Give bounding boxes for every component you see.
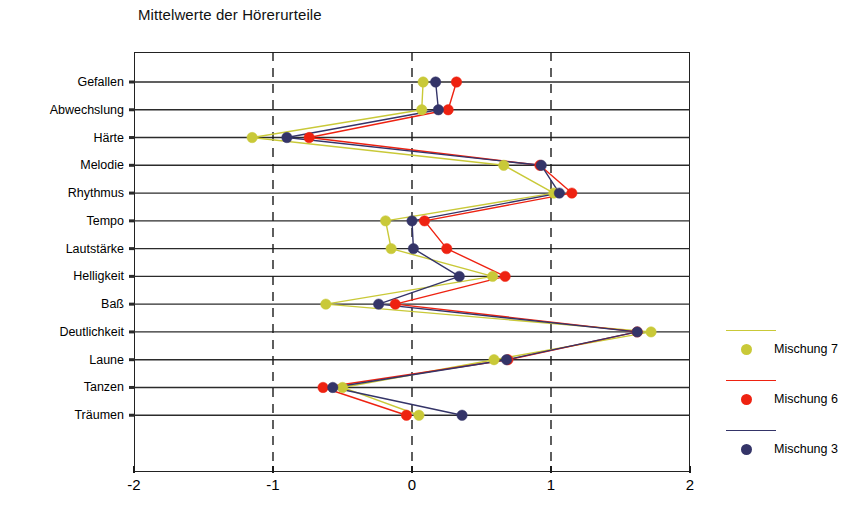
data-point <box>390 299 400 309</box>
data-point <box>632 327 642 337</box>
category-label: Lautstärke <box>66 242 124 256</box>
legend: Mischung 7Mischung 6Mischung 3 <box>714 330 854 490</box>
data-point <box>487 271 497 281</box>
plot-canvas <box>134 52 690 472</box>
legend-line-swatch <box>726 330 776 331</box>
data-point <box>457 410 467 420</box>
category-label: Deutlichkeit <box>59 325 124 339</box>
value-tick-label: -1 <box>266 476 279 493</box>
data-point <box>380 216 390 226</box>
data-point <box>408 243 418 253</box>
legend-item[interactable]: Mischung 6 <box>714 380 854 424</box>
data-point <box>454 271 464 281</box>
category-label: Melodie <box>80 158 124 172</box>
data-point <box>418 77 428 87</box>
plot-area <box>134 52 690 472</box>
value-tick-label: 1 <box>547 476 555 493</box>
value-tick-label: 2 <box>686 476 694 493</box>
data-point <box>304 132 314 142</box>
data-point <box>430 77 440 87</box>
legend-label: Mischung 6 <box>774 392 838 406</box>
category-label: Baß <box>101 297 124 311</box>
chart-figure: Mittelwerte der Hörerurteile GefallenAbw… <box>0 0 858 524</box>
value-tick-label: -2 <box>127 476 140 493</box>
legend-item[interactable]: Mischung 3 <box>714 430 854 474</box>
data-point <box>451 77 461 87</box>
data-point <box>414 410 424 420</box>
data-point <box>442 243 452 253</box>
chart-title: Mittelwerte der Hörerurteile <box>138 6 322 23</box>
value-tick-label: 0 <box>408 476 416 493</box>
legend-line-swatch <box>726 430 776 431</box>
data-point <box>489 354 499 364</box>
data-point <box>401 410 411 420</box>
data-point <box>419 216 429 226</box>
data-point <box>536 160 546 170</box>
data-point <box>328 382 338 392</box>
legend-marker-swatch <box>741 394 752 405</box>
data-point <box>500 271 510 281</box>
category-label: Helligkeit <box>73 269 124 283</box>
category-label: Rhythmus <box>68 186 124 200</box>
category-label: Tempo <box>86 214 124 228</box>
data-point <box>501 354 511 364</box>
legend-label: Mischung 7 <box>774 342 838 356</box>
category-label: Härte <box>93 131 124 145</box>
category-label: Tanzen <box>84 380 124 394</box>
category-label: Abwechslung <box>50 103 124 117</box>
legend-item[interactable]: Mischung 7 <box>714 330 854 374</box>
category-axis-labels: GefallenAbwechslungHärteMelodieRhythmusT… <box>0 52 124 472</box>
category-label: Laune <box>89 353 124 367</box>
data-point <box>417 105 427 115</box>
data-point <box>282 132 292 142</box>
data-point <box>499 160 509 170</box>
legend-marker-swatch <box>741 344 752 355</box>
data-point <box>247 132 257 142</box>
data-point <box>554 188 564 198</box>
data-point <box>443 105 453 115</box>
value-axis-labels: -2-1012 <box>134 476 690 506</box>
category-label: Gefallen <box>77 75 124 89</box>
legend-line-swatch <box>726 380 776 381</box>
data-point <box>646 327 656 337</box>
data-point <box>373 299 383 309</box>
data-point <box>433 105 443 115</box>
data-point <box>318 382 328 392</box>
legend-marker-swatch <box>741 444 752 455</box>
data-point <box>337 382 347 392</box>
category-label: Träumen <box>74 408 124 422</box>
data-point <box>386 243 396 253</box>
data-point <box>321 299 331 309</box>
legend-label: Mischung 3 <box>774 442 838 456</box>
data-point <box>407 216 417 226</box>
data-point <box>567 188 577 198</box>
